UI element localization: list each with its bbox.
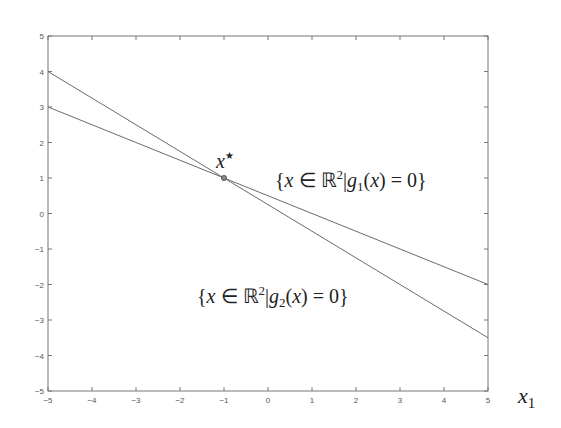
x-tick-label: 2	[354, 396, 359, 405]
x-tick-label: −3	[131, 396, 141, 405]
g2-constraint-label: {x ∈ ℝ2|g2(x) = 0}	[197, 283, 349, 310]
y-tick-label: −5	[35, 387, 45, 396]
y-tick-label: −4	[35, 352, 45, 361]
xstar-base: x	[215, 150, 225, 172]
optimum-point-marker	[221, 175, 226, 180]
g1-constraint-label: {x ∈ ℝ2|g1(x) = 0}	[275, 167, 427, 194]
y-tick-label: 2	[40, 139, 45, 148]
x-tick-label: −1	[219, 396, 229, 405]
y-tick-label: 3	[40, 103, 45, 112]
y-tick-label: −3	[35, 316, 45, 325]
y-tick-label: −1	[35, 245, 45, 254]
x-axis-label: x1	[517, 383, 535, 411]
x-tick-label: −5	[43, 396, 53, 405]
x-tick-label: 0	[266, 396, 271, 405]
constraint-lines-chart: −5−4−3−2−1012345−5−4−3−2−1012345 x★ {x ∈…	[0, 0, 561, 428]
x-tick-label: −4	[87, 396, 97, 405]
x-tick-label: 5	[486, 396, 491, 405]
y-tick-label: 4	[40, 68, 45, 77]
plot-frame	[48, 36, 488, 391]
y-tick-label: 1	[40, 174, 45, 183]
y-tick-label: 0	[40, 210, 45, 219]
x-tick-label: 4	[442, 396, 447, 405]
y-tick-label: −2	[35, 281, 45, 290]
x-tick-label: −2	[175, 396, 185, 405]
x-tick-label: 1	[310, 396, 315, 405]
y-tick-label: 5	[40, 32, 45, 41]
x-tick-label: 3	[398, 396, 403, 405]
star-icon: ★	[225, 150, 234, 161]
